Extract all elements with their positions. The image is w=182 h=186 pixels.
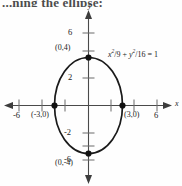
point-0-4 xyxy=(85,54,91,60)
point-label-3-0: (3,0) xyxy=(124,111,139,119)
y-axis xyxy=(83,10,95,184)
equation-annotation: x2/9 + y2/16 = 1 xyxy=(108,49,158,59)
x-axis-label: x xyxy=(175,100,179,108)
y-tick-2: 2 xyxy=(68,73,72,82)
point-3-0 xyxy=(119,102,125,108)
point-label-0-neg4: (0,-4) xyxy=(55,159,73,167)
x-tick-neg6: -6 xyxy=(13,111,20,120)
y-tick-neg2: -2 xyxy=(64,128,71,137)
y-tick-6: 6 xyxy=(68,28,72,37)
point-0-neg4 xyxy=(85,150,91,156)
ellipse-figure: ...ning the ellipse: xyxy=(0,0,182,186)
point-neg3-0 xyxy=(51,102,57,108)
point-label-0-4: (0,4) xyxy=(55,44,70,52)
y-axis-label: y xyxy=(88,2,92,10)
point-label-neg3-0: (-3,0) xyxy=(31,111,49,119)
graph-canvas xyxy=(0,0,182,186)
x-tick-6: 6 xyxy=(154,111,158,120)
